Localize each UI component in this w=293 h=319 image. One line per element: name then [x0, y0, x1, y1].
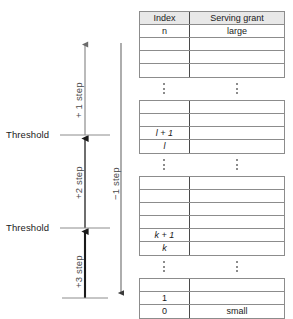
table-row: k + 1 — [140, 229, 284, 242]
threshold-label-upper: Threshold — [6, 129, 49, 140]
vertical-ellipsis-group — [139, 154, 285, 176]
step-label-plus-3: +3 step — [73, 255, 84, 288]
cell-serving-grant — [190, 216, 284, 228]
cell-serving-grant — [190, 292, 284, 304]
table-row: 0small — [140, 305, 284, 318]
cell-index — [140, 190, 190, 202]
table-row — [140, 216, 284, 229]
cell-serving-grant — [190, 64, 284, 77]
table-block: 10small — [139, 278, 285, 319]
table-row — [140, 190, 284, 203]
step-label-plus-2: +2 step — [73, 166, 84, 199]
table-header-row: IndexServing grant — [140, 12, 284, 25]
cell-index — [140, 101, 190, 113]
table-row: 1 — [140, 292, 284, 305]
table-row — [140, 177, 284, 190]
cell-serving-grant — [190, 114, 284, 126]
cell-serving-grant — [190, 101, 284, 113]
cell-serving-grant — [190, 38, 284, 50]
column-header-index: Index — [140, 12, 190, 24]
table-row — [140, 203, 284, 216]
table-row — [140, 101, 284, 114]
vertical-ellipsis-group — [139, 256, 285, 278]
step-label-minus-1: −1 step — [110, 167, 121, 200]
table-row — [140, 64, 284, 77]
cell-serving-grant — [190, 229, 284, 241]
table-row — [140, 51, 284, 64]
vertical-ellipsis-icon — [236, 83, 238, 97]
table-row: l — [140, 140, 284, 153]
vertical-ellipsis-group — [139, 78, 285, 100]
cell-index — [140, 51, 190, 63]
cell-index: k + 1 — [140, 229, 190, 241]
table-row — [140, 279, 284, 292]
vertical-ellipsis-icon — [236, 159, 238, 173]
cell-serving-grant: large — [190, 25, 284, 37]
table-row: k — [140, 242, 284, 255]
vertical-ellipsis-icon — [163, 261, 165, 275]
cell-serving-grant — [190, 203, 284, 215]
cell-index — [140, 203, 190, 215]
cell-serving-grant: small — [190, 305, 284, 318]
cell-index — [140, 177, 190, 189]
cell-index — [140, 64, 190, 77]
cell-index: l — [140, 140, 190, 153]
table-row: nlarge — [140, 25, 284, 38]
vertical-ellipsis-icon — [236, 261, 238, 275]
table-row — [140, 114, 284, 127]
cell-index: n — [140, 25, 190, 37]
cell-index: 0 — [140, 305, 190, 318]
table-row — [140, 38, 284, 51]
table-row: l + 1 — [140, 127, 284, 140]
vertical-ellipsis-icon — [163, 83, 165, 97]
cell-index — [140, 216, 190, 228]
table-block: l + 1l — [139, 100, 285, 154]
cell-serving-grant — [190, 190, 284, 202]
cell-serving-grant — [190, 279, 284, 291]
threshold-label-lower: Threshold — [6, 222, 49, 233]
step-label-plus-1: + 1 step — [73, 82, 84, 118]
cell-index — [140, 114, 190, 126]
cell-serving-grant — [190, 51, 284, 63]
column-header-serving-grant: Serving grant — [190, 12, 284, 24]
table-block: IndexServing grantnlarge — [139, 11, 285, 78]
vertical-ellipsis-icon — [163, 159, 165, 173]
cell-serving-grant — [190, 242, 284, 255]
cell-index: l + 1 — [140, 127, 190, 139]
cell-serving-grant — [190, 127, 284, 139]
cell-index: 1 — [140, 292, 190, 304]
cell-serving-grant — [190, 177, 284, 189]
table-block: k + 1k — [139, 176, 285, 256]
cell-index: k — [140, 242, 190, 255]
cell-index — [140, 38, 190, 50]
cell-index — [140, 279, 190, 291]
cell-serving-grant — [190, 140, 284, 153]
